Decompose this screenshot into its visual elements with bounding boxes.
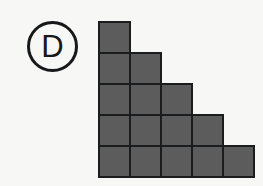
staircase-row [98, 114, 222, 147]
staircase-square [160, 114, 193, 147]
staircase-square [160, 145, 193, 178]
staircase-square [222, 145, 255, 178]
staircase-row [98, 21, 129, 54]
staircase-square [129, 83, 162, 116]
staircase-square [98, 83, 131, 116]
staircase-row [98, 83, 191, 116]
staircase-square [129, 52, 162, 85]
staircase-square [129, 145, 162, 178]
figure-canvas: D [0, 0, 263, 186]
staircase-square [98, 145, 131, 178]
figure-label-badge: D [27, 21, 78, 72]
staircase-square [191, 114, 224, 147]
staircase-square [98, 114, 131, 147]
staircase-square [160, 83, 193, 116]
staircase-row [98, 145, 253, 178]
staircase-square [98, 52, 131, 85]
staircase-figure [98, 21, 263, 186]
staircase-square [98, 21, 131, 54]
figure-label-letter: D [30, 24, 75, 69]
staircase-square [191, 145, 224, 178]
staircase-square [129, 114, 162, 147]
staircase-row [98, 52, 160, 85]
